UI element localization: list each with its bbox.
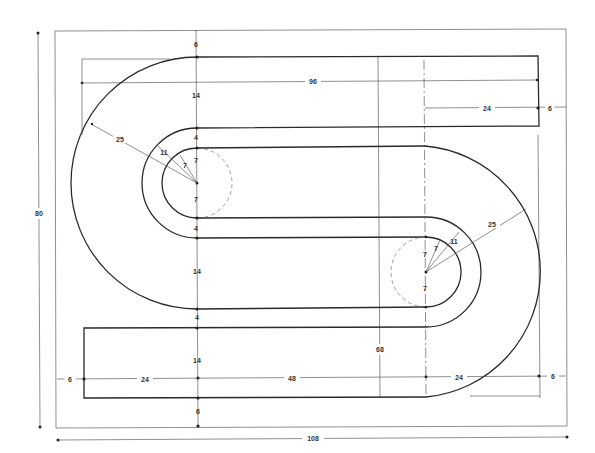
right-radii: 25 11 7 7 7 <box>423 209 526 308</box>
right-radius-outer: 25 <box>488 221 496 228</box>
inner-width-dimension: 96 <box>81 59 539 135</box>
left-radius-inner: 7 <box>183 162 187 169</box>
svg-text:4: 4 <box>194 134 198 141</box>
left-radius-outer: 25 <box>116 136 124 143</box>
bottom-right-segment: 24 <box>455 374 463 381</box>
width-dimension: 108 <box>57 433 569 444</box>
left-stack-labels: 6 14 4 7 7 4 14 4 14 6 <box>192 41 201 415</box>
svg-text:14: 14 <box>193 268 201 275</box>
bottom-right-margin: 6 <box>551 373 555 380</box>
right-radius-middle: 11 <box>450 238 458 245</box>
technical-drawing: 80 108 96 68 <box>0 0 595 453</box>
right-radius-lower: 7 <box>423 285 427 292</box>
top-right-segment: 24 <box>483 105 491 112</box>
left-radii: 25 11 7 <box>91 123 197 183</box>
top-bar-right-dimensions: 24 6 <box>425 103 566 112</box>
svg-text:7: 7 <box>194 196 198 203</box>
left-radius-middle: 11 <box>160 149 168 156</box>
svg-text:6: 6 <box>194 41 198 48</box>
svg-text:14: 14 <box>193 357 201 364</box>
right-centerline <box>424 60 426 395</box>
svg-text:4: 4 <box>194 225 198 232</box>
width-label: 108 <box>307 435 319 442</box>
bottom-middle-segment: 48 <box>288 375 296 382</box>
right-radius-inner-a: 7 <box>434 245 438 252</box>
svg-text:4: 4 <box>195 314 199 321</box>
bottom-left-segment: 24 <box>141 376 149 383</box>
height-dimension: 80 <box>30 32 48 429</box>
outer-frame <box>55 29 567 428</box>
top-right-margin: 6 <box>548 105 552 112</box>
svg-text:7: 7 <box>194 157 198 164</box>
inner-width-label: 96 <box>309 78 317 85</box>
bottom-left-margin: 6 <box>68 376 72 383</box>
centers-dimension: 68 <box>370 57 388 397</box>
s-track <box>71 56 540 398</box>
svg-text:14: 14 <box>192 92 200 99</box>
height-label: 80 <box>35 210 43 217</box>
svg-text:6: 6 <box>196 408 200 415</box>
centers-label: 68 <box>376 346 384 353</box>
right-radius-inner-b: 7 <box>423 251 427 258</box>
